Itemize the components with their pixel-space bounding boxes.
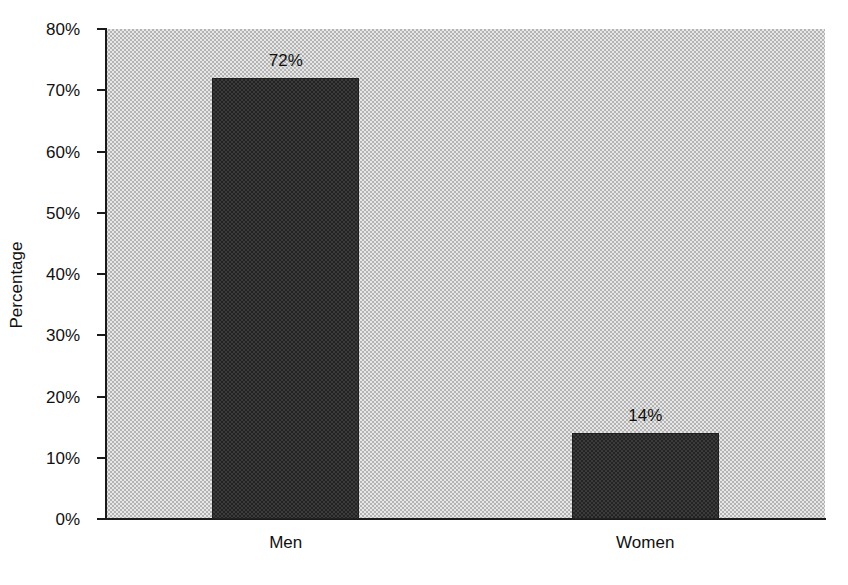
x-axis-tick-label-women: Women <box>555 534 735 551</box>
y-axis-tick <box>97 334 106 336</box>
y-axis-tick <box>97 518 106 520</box>
y-axis-tick <box>97 396 106 398</box>
y-axis-tick <box>97 89 106 91</box>
y-axis-tick-label-text: 70% <box>46 81 80 101</box>
bar-women <box>572 433 719 519</box>
y-axis-title: Percentage <box>4 180 30 390</box>
y-axis-tick-label-text: 10% <box>46 449 80 469</box>
y-axis-tick <box>97 273 106 275</box>
y-axis-tick <box>97 212 106 214</box>
bar-chart: Percentage 0%10%20%30%40%50%60%70%80% 72… <box>0 0 848 585</box>
y-axis-title-label: Percentage <box>7 242 27 329</box>
bar-value-label-women: 14% <box>585 407 705 424</box>
y-axis-tick-label-text: 50% <box>46 204 80 224</box>
y-axis-tick <box>97 457 106 459</box>
y-axis-tick <box>97 28 106 30</box>
y-axis-tick-label-text: 80% <box>46 20 80 40</box>
y-axis-tick-label-text: 60% <box>46 143 80 163</box>
x-axis-tick-label-men: Men <box>196 534 376 551</box>
y-axis-tick-label-text: 40% <box>46 265 80 285</box>
bar-men <box>212 78 359 519</box>
y-axis-tick-label-text: 30% <box>46 326 80 346</box>
bar-value-label-men: 72% <box>226 52 346 69</box>
y-axis-tick-label-text: 20% <box>46 388 80 408</box>
y-axis-tick-label-text: 0% <box>55 510 80 530</box>
y-axis-tick <box>97 151 106 153</box>
